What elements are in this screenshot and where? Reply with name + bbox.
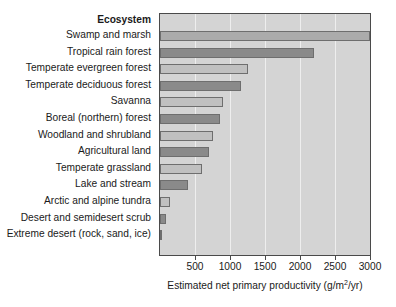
category-label: Temperate deciduous forest [0,77,155,94]
bar-row [160,227,370,244]
category-label-column: Ecosystem Swamp and marshTropical rain f… [0,12,155,243]
x-tick [230,256,231,260]
x-tick [195,256,196,260]
bar [160,131,213,141]
bar-row [160,177,370,194]
x-tick-label: 2000 [289,261,312,272]
bar [160,97,223,107]
bar-row [160,28,370,45]
gridline [370,14,371,255]
bar [160,81,241,91]
x-axis-title-superscript: 2 [344,279,348,286]
category-label: Boreal (northern) forest [0,110,155,127]
productivity-bar-chart: Ecosystem Swamp and marshTropical rain f… [0,0,396,307]
category-label: Extreme desert (rock, sand, ice) [0,226,155,243]
category-label: Swamp and marsh [0,27,155,44]
x-tick [265,256,266,260]
x-tick-label: 3000 [359,261,382,272]
category-label: Arctic and alpine tundra [0,193,155,210]
x-tick-label: 2500 [324,261,347,272]
bar [160,48,314,58]
x-tick [370,256,371,260]
bar [160,197,170,207]
bar-row [160,45,370,62]
bar-row [160,144,370,161]
category-label: Lake and stream [0,176,155,193]
bar [160,31,370,41]
x-tick-label: 1000 [219,261,242,272]
bar-row [160,94,370,111]
x-tick [335,256,336,260]
ecosystem-header-label: Ecosystem [0,12,155,27]
x-tick-label: 500 [187,261,204,272]
x-tick [300,256,301,260]
bar [160,147,209,157]
bar-row [160,161,370,178]
bar-row [160,61,370,78]
category-label: Tropical rain forest [0,44,155,61]
x-axis-tick-labels: 50010001500200025003000 [159,261,371,275]
bar [160,114,220,124]
bar-row [160,111,370,128]
category-label: Agricultural land [0,143,155,160]
bar-row [160,194,370,211]
bar-row [160,128,370,145]
bar [160,230,162,240]
bar-row [160,78,370,95]
bar [160,180,188,190]
category-label: Desert and semidesert scrub [0,210,155,227]
bar [160,214,166,224]
x-tick-label: 1500 [254,261,277,272]
x-axis-title: Estimated net primary productivity (g/m2… [159,279,371,291]
category-label: Temperate grassland [0,160,155,177]
plot-area [159,13,371,256]
bar-row [160,211,370,228]
bar [160,64,248,74]
category-label: Woodland and shrubland [0,127,155,144]
category-label: Temperate evergreen forest [0,60,155,77]
bar [160,164,202,174]
bars-layer [160,28,370,244]
category-label: Savanna [0,93,155,110]
